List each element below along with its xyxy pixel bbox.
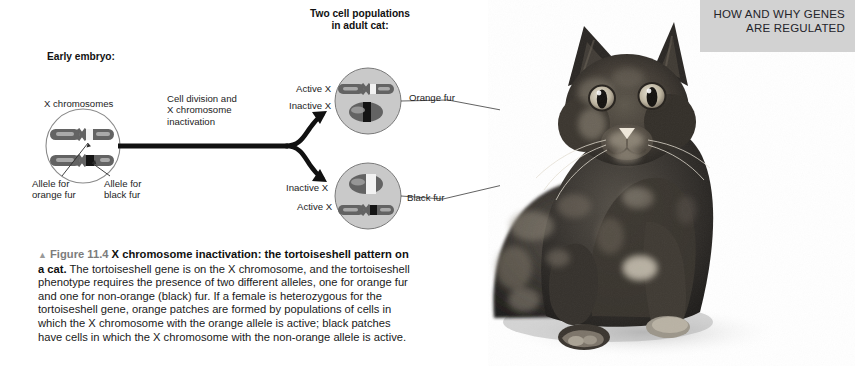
figure-caption: ▲ Figure 11.4 X chromosome inactivation:… <box>38 248 410 344</box>
inactive-x-barr-body-black <box>349 174 383 194</box>
running-head-banner: HOW AND WHY GENES ARE REGULATED <box>700 0 855 52</box>
label-x-chromosomes: X chromosomes <box>44 98 113 109</box>
label-orange-fur: Orange fur <box>409 92 455 103</box>
adult-cell-black <box>335 163 401 229</box>
chromosome-orange-allele <box>50 129 114 140</box>
label-inactive-x-top-cell: Inactive X <box>289 100 331 111</box>
label-two-cell-populations: Two cell populations in adult cat: <box>290 8 430 32</box>
label-active-x-top-cell: Active X <box>296 83 331 94</box>
label-allele-black-fur: Allele for black fur <box>104 178 141 201</box>
caption-body: The tortoiseshell gene is on the X chrom… <box>38 263 410 343</box>
x-inactivation-diagram <box>0 0 500 250</box>
adult-cell-orange <box>335 68 401 134</box>
caption-triangle-icon: ▲ <box>38 250 47 260</box>
leader-lines <box>401 100 500 199</box>
label-cell-division-and-inactivation: Cell division and X chromosome inactivat… <box>167 93 237 127</box>
label-early-embryo: Early embryo: <box>47 51 115 63</box>
figure-page: HOW AND WHY GENES ARE REGULATED <box>0 0 855 366</box>
label-black-fur: Black fur <box>407 192 444 203</box>
label-active-x-bottom-cell: Active X <box>297 201 332 212</box>
tortoiseshell-cat-photo <box>488 0 855 366</box>
label-allele-orange-fur: Allele for orange fur <box>32 178 76 201</box>
label-inactive-x-bottom-cell: Inactive X <box>286 182 328 193</box>
inactive-x-barr-body-orange <box>349 102 383 122</box>
running-head-text: HOW AND WHY GENES ARE REGULATED <box>713 8 845 35</box>
early-embryo-cell <box>46 109 120 183</box>
caption-figure-number: Figure 11.4 <box>50 248 108 260</box>
chromosome-black-allele <box>50 155 114 166</box>
